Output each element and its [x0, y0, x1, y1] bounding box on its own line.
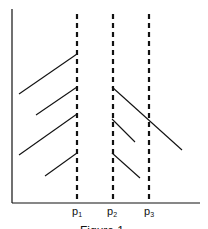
figure-caption: Figure 1: [80, 224, 124, 229]
left-segment-1: [19, 54, 77, 94]
label-p2: p2: [107, 205, 117, 218]
left-segment-3: [19, 114, 77, 155]
left-segment-4: [45, 153, 77, 176]
right-segment-3: [112, 153, 140, 178]
right-segment-1: [112, 87, 182, 150]
label-p3: p3: [144, 205, 154, 218]
left-segment-2: [36, 87, 77, 115]
right-segment-2: [112, 119, 135, 142]
label-p1: p1: [72, 205, 82, 218]
right-segments: [112, 87, 182, 178]
left-segments: [19, 54, 77, 176]
figure-diagram: p1 p2 p3 Figure 1: [0, 0, 208, 229]
